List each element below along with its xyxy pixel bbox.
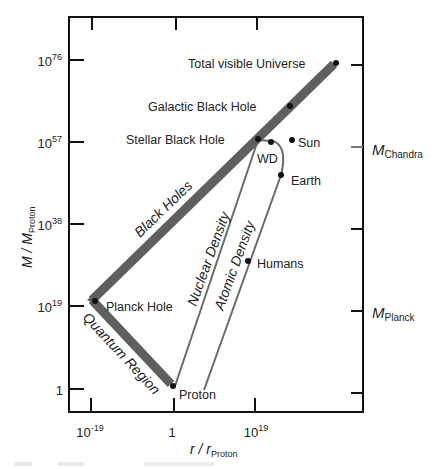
label-earth: Earth (291, 174, 321, 188)
svg-text:1057: 1057 (38, 134, 62, 151)
label-stellar: Stellar Black Hole (126, 133, 225, 147)
point-humans (245, 258, 251, 264)
m-planck-label: MPlanck (372, 304, 416, 323)
svg-text:10-19: 10-19 (76, 423, 103, 440)
right-axis-ticks (351, 65, 363, 393)
svg-text:1038: 1038 (38, 216, 62, 233)
point-proton (170, 383, 176, 389)
svg-text:1: 1 (56, 383, 63, 398)
label-wd: WD (257, 152, 278, 166)
svg-text:1019: 1019 (38, 298, 62, 315)
point-wd (268, 139, 274, 145)
top-axis-ticks (92, 17, 257, 30)
svg-text:1019: 1019 (244, 423, 268, 440)
label-planck-hole: Planck Hole (106, 300, 173, 314)
mass-radius-chart: 1076 1057 1038 1019 1 10-19 1 1019 r / r… (0, 0, 437, 469)
point-universe (333, 60, 339, 66)
caption-fragment (14, 462, 314, 466)
m-chandra-label: MChandra (372, 141, 423, 160)
svg-text:1076: 1076 (38, 52, 62, 69)
point-earth (278, 172, 284, 178)
x-tick-labels: 10-19 1 1019 (76, 423, 268, 440)
x-axis-title: r / rProton (190, 441, 238, 459)
y-axis-title: M / MProton (19, 206, 37, 268)
svg-text:1: 1 (168, 425, 175, 440)
y-tick-labels: 1076 1057 1038 1019 1 (38, 52, 63, 398)
point-planck-hole (92, 298, 98, 304)
y-axis-ticks (69, 60, 84, 389)
label-sun: Sun (298, 136, 320, 150)
label-universe: Total visible Universe (188, 57, 305, 71)
label-humans: Humans (257, 257, 304, 271)
label-galactic: Galactic Black Hole (148, 100, 256, 114)
point-stellar-black-hole (255, 136, 261, 142)
label-quantum-region: Quantum Region (80, 309, 164, 397)
point-galactic-black-hole (287, 103, 293, 109)
x-axis-ticks (91, 398, 255, 412)
point-sun (289, 137, 295, 143)
label-proton: Proton (179, 388, 216, 402)
